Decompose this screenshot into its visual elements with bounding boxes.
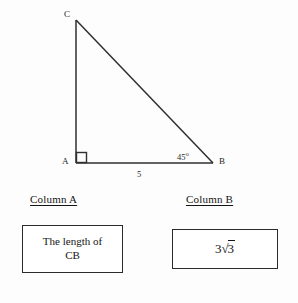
column-a-value-line1: The length of xyxy=(43,235,102,247)
angle-label-45-degrees: 45o xyxy=(177,151,189,161)
column-b-radicand: 3 xyxy=(228,240,236,256)
triangle-figure: C A B 45o 5 xyxy=(0,0,298,190)
column-b-header: Column B xyxy=(186,193,233,205)
column-b-box: 3√3 xyxy=(172,229,278,269)
column-a-value-line2: CB xyxy=(65,249,80,261)
hypotenuse-cb-line xyxy=(76,20,213,163)
angle-value: 45 xyxy=(177,152,186,162)
column-a-header: Column A xyxy=(30,193,77,205)
column-a-value: The length of CB xyxy=(39,235,106,263)
column-comparison-section: Column A Column B The length of CB 3√3 xyxy=(0,190,298,303)
vertex-label-b: B xyxy=(219,157,225,166)
column-a-box: The length of CB xyxy=(22,225,123,273)
column-b-value: 3√3 xyxy=(215,242,235,256)
quantitative-comparison-question: C A B 45o 5 Column A Column B The length… xyxy=(0,0,298,303)
right-angle-marker-icon xyxy=(77,153,87,163)
triangle-svg xyxy=(0,0,298,190)
degree-symbol: o xyxy=(186,150,189,157)
side-length-label-ab: 5 xyxy=(137,170,141,179)
vertex-label-c: C xyxy=(64,10,70,19)
vertex-label-a: A xyxy=(62,157,69,166)
